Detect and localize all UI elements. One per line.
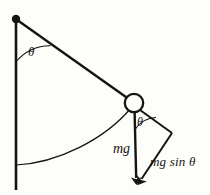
pivot-dot bbox=[12, 15, 20, 23]
pendulum-force-diagram: θ θ mg mg sin θ bbox=[0, 0, 210, 195]
label-mg-sin-theta: mg sin θ bbox=[150, 155, 196, 168]
label-theta-at-bob: θ bbox=[137, 116, 143, 128]
swing-arc bbox=[16, 108, 131, 165]
pendulum-string bbox=[17, 20, 134, 103]
label-theta-upper: θ bbox=[28, 45, 34, 58]
component-construction-line bbox=[140, 110, 172, 133]
label-mg: mg bbox=[113, 142, 130, 156]
weight-vector-mg bbox=[135, 112, 137, 178]
